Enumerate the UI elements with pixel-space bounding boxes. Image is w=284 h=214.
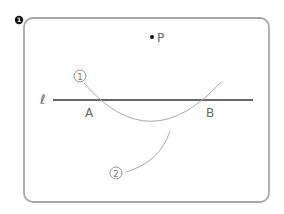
arc-2 (126, 131, 170, 172)
intersection-b-label: B (206, 106, 214, 120)
line-l-label: ℓ (39, 92, 45, 107)
problem-number-text: 1 (17, 16, 21, 23)
arc-2-badge-number: 2 (113, 169, 118, 179)
intersection-a-label: A (85, 106, 94, 120)
arc-1-badge-number: 1 (77, 72, 82, 82)
construction-diagram: 1 P ℓ A B 1 2 (0, 0, 284, 214)
arc-1 (84, 82, 221, 121)
point-p-dot (150, 35, 154, 39)
point-p-label: P (157, 31, 164, 45)
diagram-frame (24, 18, 269, 202)
